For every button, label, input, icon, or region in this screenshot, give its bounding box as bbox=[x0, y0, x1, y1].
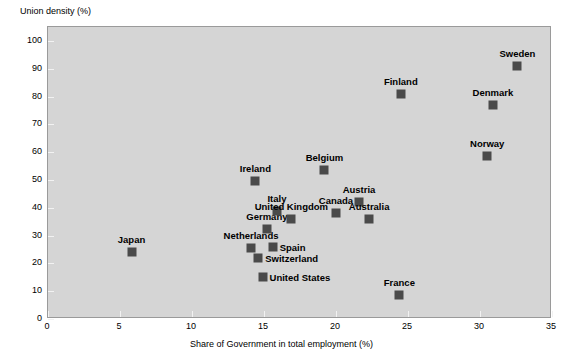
x-tick-label: 10 bbox=[186, 321, 196, 331]
y-tick-label: 0 bbox=[2, 313, 42, 323]
x-tick-label: 35 bbox=[546, 321, 556, 331]
y-tick-mark bbox=[48, 41, 54, 42]
data-point-label: United Kingdom bbox=[255, 201, 328, 212]
y-tick-mark bbox=[48, 69, 54, 70]
x-tick-mark bbox=[336, 311, 337, 317]
x-tick-label: 20 bbox=[330, 321, 340, 331]
x-axis-tick-labels: 05101520253035 bbox=[47, 321, 551, 335]
data-point-marker[interactable] bbox=[365, 214, 374, 223]
y-tick-label: 30 bbox=[2, 230, 42, 240]
x-tick-label: 0 bbox=[44, 321, 49, 331]
data-point-label: Finland bbox=[384, 76, 418, 87]
data-point-marker[interactable] bbox=[513, 61, 522, 70]
data-point-label: France bbox=[384, 277, 415, 288]
x-tick-mark bbox=[480, 311, 481, 317]
y-axis-tick-labels: 0102030405060708090100 bbox=[0, 26, 42, 318]
y-tick-mark bbox=[48, 152, 54, 153]
data-point-marker[interactable] bbox=[488, 100, 497, 109]
x-tick-mark bbox=[48, 311, 49, 317]
data-point-label: Ireland bbox=[240, 163, 271, 174]
y-tick-mark bbox=[48, 97, 54, 98]
data-point-label: Norway bbox=[470, 138, 504, 149]
y-tick-label: 100 bbox=[2, 35, 42, 45]
y-tick-mark bbox=[48, 263, 54, 264]
data-point-marker[interactable] bbox=[258, 273, 267, 282]
y-tick-mark bbox=[48, 319, 54, 320]
data-point-marker[interactable] bbox=[262, 224, 271, 233]
data-point-marker[interactable] bbox=[287, 214, 296, 223]
x-tick-label: 25 bbox=[402, 321, 412, 331]
y-tick-label: 60 bbox=[2, 146, 42, 156]
data-point-label: Switzerland bbox=[265, 252, 318, 263]
x-tick-mark bbox=[192, 311, 193, 317]
y-tick-label: 40 bbox=[2, 202, 42, 212]
data-point-label: United States bbox=[270, 272, 331, 283]
data-point-marker[interactable] bbox=[396, 89, 405, 98]
y-tick-mark bbox=[48, 124, 54, 125]
y-tick-mark bbox=[48, 208, 54, 209]
data-point-label: Denmark bbox=[473, 87, 514, 98]
data-point-marker[interactable] bbox=[268, 242, 277, 251]
x-tick-label: 30 bbox=[474, 321, 484, 331]
data-point-marker[interactable] bbox=[320, 166, 329, 175]
data-point-marker[interactable] bbox=[483, 152, 492, 161]
data-point-label: Spain bbox=[280, 241, 306, 252]
y-tick-label: 20 bbox=[2, 257, 42, 267]
y-tick-label: 80 bbox=[2, 91, 42, 101]
data-point-label: Austria bbox=[343, 184, 376, 195]
y-tick-mark bbox=[48, 236, 54, 237]
x-tick-mark bbox=[120, 311, 121, 317]
data-point-label: Belgium bbox=[306, 152, 343, 163]
data-point-label: Sweden bbox=[499, 48, 535, 59]
y-tick-label: 90 bbox=[2, 63, 42, 73]
x-tick-mark bbox=[264, 311, 265, 317]
y-tick-label: 10 bbox=[2, 285, 42, 295]
x-tick-label: 15 bbox=[258, 321, 268, 331]
x-axis-title: Share of Government in total employment … bbox=[0, 339, 563, 349]
y-tick-mark bbox=[48, 180, 54, 181]
x-tick-mark bbox=[552, 311, 553, 317]
x-tick-mark bbox=[408, 311, 409, 317]
data-point-label: Australia bbox=[349, 201, 390, 212]
data-point-marker[interactable] bbox=[127, 248, 136, 257]
y-tick-label: 50 bbox=[2, 174, 42, 184]
data-point-marker[interactable] bbox=[254, 253, 263, 262]
x-tick-label: 5 bbox=[116, 321, 121, 331]
y-tick-mark bbox=[48, 291, 54, 292]
data-point-marker[interactable] bbox=[247, 244, 256, 253]
data-point-marker[interactable] bbox=[332, 209, 341, 218]
data-point-label: Japan bbox=[118, 234, 145, 245]
scatter-chart: Union density (%) 0102030405060708090100… bbox=[0, 0, 563, 360]
y-axis-title: Union density (%) bbox=[20, 6, 91, 16]
data-point-marker[interactable] bbox=[395, 291, 404, 300]
y-tick-label: 70 bbox=[2, 118, 42, 128]
data-point-marker[interactable] bbox=[251, 177, 260, 186]
plot-area: JapanNetherlandsIrelandSwitzerlandUnited… bbox=[47, 26, 551, 318]
